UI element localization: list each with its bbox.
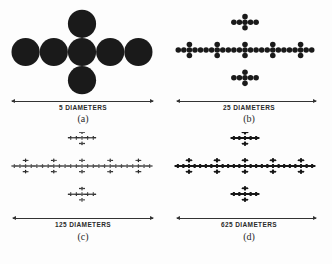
panel-letter-b: (b) xyxy=(166,113,332,124)
scale-label-c: 125 DIAMETERS xyxy=(0,221,166,228)
panel-c: 125 DIAMETERS (c) xyxy=(0,132,166,264)
fractal-aggregate-d xyxy=(166,132,332,264)
scale-arrow-b xyxy=(177,101,316,102)
panel-letter-a: (a) xyxy=(0,113,166,124)
scale-arrow-c xyxy=(13,218,153,219)
scale-label-a: 5 DIAMETERS xyxy=(0,104,166,111)
scale-arrow-d xyxy=(177,218,316,219)
scale-label-d: 625 DIAMETERS xyxy=(166,221,332,228)
panel-a: 5 DIAMETERS (a) xyxy=(0,0,166,132)
fractal-aggregate-c xyxy=(0,132,166,264)
scale-label-b: 25 DIAMETERS xyxy=(166,104,332,111)
panel-b: 25 DIAMETERS (b) xyxy=(166,0,332,132)
panel-letter-c: (c) xyxy=(0,231,166,242)
scale-arrow-a xyxy=(12,101,153,102)
panel-d: 625 DIAMETERS (d) xyxy=(166,132,332,264)
panel-letter-d: (d) xyxy=(166,231,332,242)
